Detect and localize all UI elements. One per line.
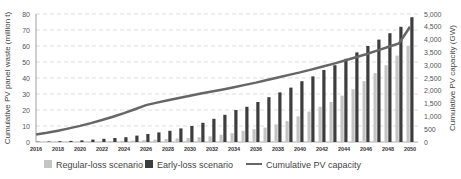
bar-regular-loss bbox=[209, 136, 212, 142]
bar-regular-loss bbox=[187, 138, 190, 142]
bar-early-loss bbox=[355, 52, 358, 142]
right-axis-title: Cumulative PV capacity (GW) bbox=[448, 25, 457, 131]
x-tick-label: 2050 bbox=[404, 146, 416, 152]
y2-tick-label: 2,000 bbox=[424, 87, 442, 94]
y2-tick-label: 0 bbox=[424, 139, 428, 146]
bar-regular-loss bbox=[385, 65, 388, 142]
bar-regular-loss bbox=[242, 131, 245, 142]
bar-early-loss bbox=[311, 76, 314, 142]
y-tick-label: 20 bbox=[22, 107, 30, 114]
pv-waste-chart: 01020304050607080 05001,0001,5002,0002,5… bbox=[0, 0, 461, 179]
legend-swatch-regular bbox=[44, 160, 52, 168]
x-tick-label: 2048 bbox=[382, 146, 394, 152]
x-tick-label: 2042 bbox=[316, 146, 328, 152]
bar-regular-loss bbox=[264, 128, 267, 142]
y2-tick-label: 1,500 bbox=[424, 100, 442, 107]
bar-regular-loss bbox=[143, 140, 146, 142]
bar-early-loss bbox=[267, 97, 270, 142]
bar-regular-loss bbox=[352, 89, 355, 142]
bar-regular-loss bbox=[176, 138, 179, 142]
bar-regular-loss bbox=[110, 141, 113, 142]
y-tick-label: 0 bbox=[26, 139, 30, 146]
bar-regular-loss bbox=[319, 107, 322, 142]
bar-early-loss bbox=[168, 131, 171, 142]
bar-early-loss bbox=[212, 119, 215, 142]
bar-early-loss bbox=[58, 141, 61, 142]
bar-regular-loss bbox=[220, 135, 223, 142]
bar-early-loss bbox=[256, 102, 259, 142]
left-axis-ticks: 01020304050607080 bbox=[22, 11, 30, 146]
bar-early-loss bbox=[190, 126, 193, 142]
y2-tick-label: 3,500 bbox=[424, 49, 442, 56]
x-tick-label: 2026 bbox=[140, 146, 152, 152]
bar-early-loss bbox=[377, 40, 380, 142]
y2-tick-label: 4,000 bbox=[424, 36, 442, 43]
bar-regular-loss bbox=[154, 140, 157, 142]
bar-early-loss bbox=[124, 137, 127, 142]
legend-label-early: Early-loss scenario bbox=[157, 160, 233, 170]
x-tick-label: 2022 bbox=[96, 146, 108, 152]
legend-label-regular: Regular-loss scenario bbox=[56, 160, 143, 170]
x-tick-label: 2024 bbox=[118, 146, 131, 152]
bar-early-loss bbox=[135, 136, 138, 142]
bar-regular-loss bbox=[231, 133, 234, 142]
x-tick-label: 2034 bbox=[228, 146, 241, 152]
bar-regular-loss bbox=[132, 141, 135, 142]
bar-regular-loss bbox=[286, 121, 289, 142]
bar-regular-loss bbox=[121, 141, 124, 142]
x-tick-label: 2030 bbox=[184, 146, 196, 152]
bar-early-loss bbox=[300, 81, 303, 142]
bar-regular-loss bbox=[253, 129, 256, 142]
y-tick-label: 10 bbox=[22, 123, 30, 130]
legend-label-capacity: Cumulative PV capacity bbox=[266, 160, 362, 170]
bar-early-loss bbox=[102, 139, 105, 142]
bar-early-loss bbox=[245, 107, 248, 142]
bar-regular-loss bbox=[297, 116, 300, 142]
y-tick-label: 80 bbox=[22, 11, 30, 18]
bar-early-loss bbox=[179, 128, 182, 142]
y-tick-label: 40 bbox=[22, 75, 30, 82]
bar-regular-loss bbox=[99, 141, 102, 142]
bar-early-loss bbox=[410, 17, 413, 142]
legend-swatch-early bbox=[145, 160, 153, 168]
bar-early-loss bbox=[69, 141, 72, 142]
bar-early-loss bbox=[344, 59, 347, 142]
bar-regular-loss bbox=[275, 124, 278, 142]
bar-early-loss bbox=[333, 65, 336, 142]
bar-regular-loss bbox=[374, 73, 377, 142]
bar-early-loss bbox=[80, 140, 83, 142]
bar-early-loss bbox=[91, 140, 94, 142]
y-tick-label: 60 bbox=[22, 43, 30, 50]
y2-tick-label: 500 bbox=[424, 126, 436, 133]
bar-early-loss bbox=[146, 134, 149, 142]
right-axis-ticks: 05001,0001,5002,0002,5003,0003,5004,0004… bbox=[424, 11, 442, 146]
y2-tick-label: 5,000 bbox=[424, 11, 442, 18]
bar-regular-loss bbox=[330, 102, 333, 142]
bar-regular-loss bbox=[165, 139, 168, 142]
bar-early-loss bbox=[113, 138, 116, 142]
x-tick-label: 2036 bbox=[250, 146, 262, 152]
bar-early-loss bbox=[322, 70, 325, 142]
x-tick-label: 2028 bbox=[162, 146, 174, 152]
x-tick-label: 2020 bbox=[74, 146, 86, 152]
bar-early-loss bbox=[289, 88, 292, 142]
bar-regular-loss bbox=[198, 137, 201, 142]
bar-early-loss bbox=[157, 132, 160, 142]
bar-regular-loss bbox=[341, 96, 344, 142]
y-tick-label: 30 bbox=[22, 91, 30, 98]
y2-tick-label: 2,500 bbox=[424, 75, 442, 82]
bar-regular-loss bbox=[308, 112, 311, 142]
bar-regular-loss bbox=[407, 46, 410, 142]
bar-early-loss bbox=[201, 123, 204, 142]
legend: Regular-loss scenario Early-loss scenari… bbox=[44, 160, 362, 170]
y2-tick-label: 4,500 bbox=[424, 23, 442, 30]
x-tick-label: 2032 bbox=[206, 146, 218, 152]
x-tick-label: 2040 bbox=[294, 146, 306, 152]
y2-tick-label: 1,000 bbox=[424, 113, 442, 120]
x-tick-label: 2038 bbox=[272, 146, 284, 152]
bar-early-loss bbox=[366, 46, 369, 142]
x-axis-ticks: 2016201820202022202420262028203020322034… bbox=[30, 146, 416, 152]
y-tick-label: 70 bbox=[22, 27, 30, 34]
bar-early-loss bbox=[278, 92, 281, 142]
bar-regular-loss bbox=[396, 56, 399, 142]
